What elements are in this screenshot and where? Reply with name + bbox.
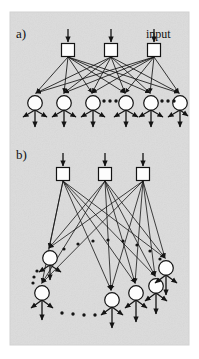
input-node-square xyxy=(105,44,118,57)
input-annotation-label: input xyxy=(146,28,171,40)
ellipsis-dots xyxy=(160,99,175,102)
input-node-square xyxy=(148,44,161,57)
panel-label-b: b) xyxy=(16,148,27,161)
figure-root: a) b) input xyxy=(0,0,199,359)
input-node-square xyxy=(62,44,75,57)
input-node-square xyxy=(57,168,70,181)
input-node-square xyxy=(99,168,112,181)
network-diagram-canvas xyxy=(0,0,199,359)
input-node-square xyxy=(137,168,150,181)
panel-label-a: a) xyxy=(16,27,26,40)
ellipsis-dots xyxy=(102,99,117,102)
